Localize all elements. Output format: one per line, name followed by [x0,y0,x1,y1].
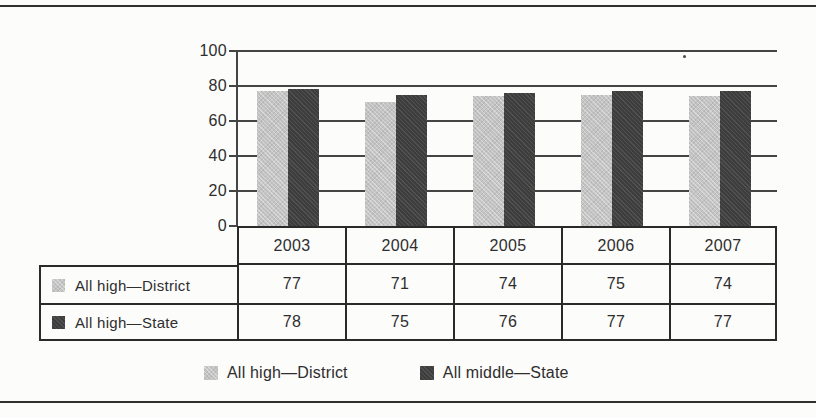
bar-2007-state [720,91,751,226]
table-value-cell: 77 [561,305,669,341]
table-row-label-text: All high—State [75,314,178,331]
bar-2003-state [288,89,319,226]
table-header-cell-2005: 2005 [453,226,561,265]
table-value-cell: 76 [453,305,561,341]
table-value-cell: 74 [453,265,561,305]
y-tick-label-100: 100 [181,42,227,60]
legend-label: All middle—State [443,364,569,382]
bar-2005-district [473,96,504,226]
bar-2006-state [612,91,643,226]
table-row-label: All high—State [39,305,237,341]
data-table: 20032004200520062007All high—District777… [39,226,777,341]
table-value-cell: 77 [237,265,345,305]
top-rule [0,5,816,7]
legend-label: All high—District [227,364,348,382]
chart-legend: All high—DistrictAll middle—State [204,364,569,382]
table-value-cell: 75 [345,305,453,341]
gridline-80 [237,85,777,87]
table-header-cell-2004: 2004 [345,226,453,265]
bar-2003-district [257,91,288,226]
table-header-cell-2003: 2003 [237,226,345,265]
table-header-cell-2006: 2006 [561,226,669,265]
table-value-cell: 75 [561,265,669,305]
bar-2004-district [365,102,396,226]
bar-2004-state [396,95,427,226]
table-value-cell: 71 [345,265,453,305]
bar-2005-state [504,93,535,226]
legend-state-swatch-icon [420,366,434,380]
state-swatch-icon [52,316,65,329]
y-tick-label-80: 80 [181,77,227,95]
table-value-cell: 74 [669,265,777,305]
table-header-cell-2007: 2007 [669,226,777,265]
table-corner-spacer [39,226,237,265]
district-swatch-icon [52,279,65,292]
bar-2007-district [689,96,720,226]
y-tick-label-20: 20 [181,182,227,200]
table-value-cell: 77 [669,305,777,341]
legend-district-swatch-icon [204,366,218,380]
y-tick-label-60: 60 [181,112,227,130]
gridline-100 [237,50,777,52]
y-tick-label-40: 40 [181,147,227,165]
table-row-label-text: All high—District [75,277,190,294]
legend-item: All high—District [204,364,348,382]
bottom-rule [0,401,816,403]
table-row-label: All high—District [39,265,237,305]
legend-item: All middle—State [420,364,569,382]
scan-speck [683,55,686,58]
y-axis-line [236,51,238,226]
scanned-figure-page: 020406080100 20032004200520062007All hig… [0,0,816,418]
table-value-cell: 78 [237,305,345,341]
bar-2006-district [581,95,612,226]
